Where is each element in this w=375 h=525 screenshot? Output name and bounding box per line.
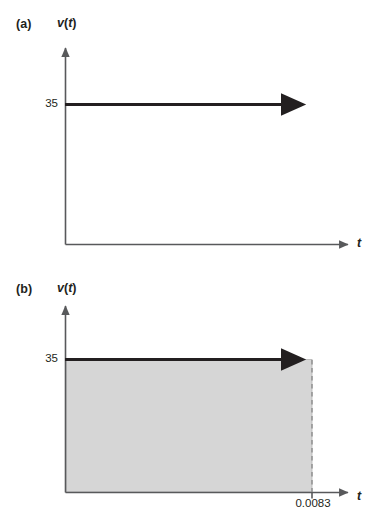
figure-panel-b: (b) v(t) 35 0.0083 t A = 35(0.0083) (0, 265, 375, 525)
panel-b-shaded-area (66, 360, 312, 493)
panel-b-plot (0, 265, 375, 525)
figure-panel-a: (a) v(t) 35 t (0, 0, 375, 265)
panel-a-plot (0, 0, 375, 265)
